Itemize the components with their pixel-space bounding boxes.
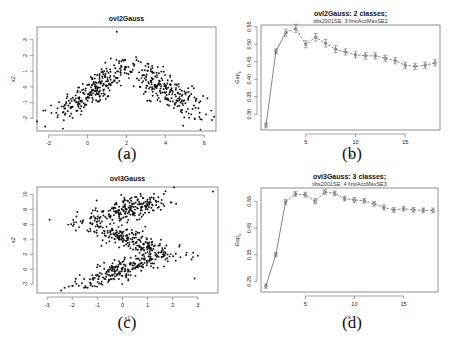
chart-title: ovl2Gauss [109,15,145,22]
x-tick-label: 1 [146,302,149,308]
y-tick-label: -1 [22,100,28,105]
y-tick-label: 0 [22,268,28,271]
y-tick-label: -2 [22,116,28,121]
y-tick-label: 1 [22,70,28,73]
panel-c-ovl3gauss-scatter: -3-2-10123-20246810x1x2ovl3Gauss [0,174,230,324]
y-axis-label: x2 [10,76,16,82]
x-tick-label: -3 [45,302,50,308]
y-tick-label: 8 [22,208,28,211]
x-tick-label: -1 [95,302,100,308]
chart-title: ovl3Gauss [110,175,146,182]
axes: 510150.250.350.450.55kGapk [234,188,438,320]
plot-frame [37,27,216,131]
plot-frame [261,188,438,292]
y-tick-label: 0.35 [246,91,252,102]
y-axis-label: Gapk [234,71,242,83]
y-tick-label: 2 [22,54,28,57]
gap-plot-d: 510150.250.350.450.55kGapkovl3Gauss: 3 c… [230,174,453,324]
x-tick-label: 0 [121,302,124,308]
scatter-points [36,31,215,131]
x-tick-label: 15 [401,301,407,307]
axes: 510150.300.350.400.450.500.55kGapk [234,21,440,158]
y-tick-label: -2 [22,282,28,287]
panel-a-ovl2gauss-scatter: -20246-2-10123x1x2ovl2Gauss [0,0,230,160]
error-bars [264,24,437,128]
y-tick-label: 4 [22,238,28,241]
y-tick-label: 0.55 [246,196,252,207]
y-tick-label: 0.45 [246,56,252,67]
panel-d-ovl3gauss-gap: 510150.250.350.450.55kGapkovl3Gauss: 3 c… [230,174,453,324]
caption-c: (c) [97,313,157,333]
x-tick-label: 3 [196,302,199,308]
x-tick-label: 2 [171,302,174,308]
y-tick-label: 2 [22,253,28,256]
gap-line-series [265,191,435,288]
x-tick-label: 5 [304,139,307,145]
x-tick-label: 0 [86,140,89,146]
y-axis-label: Gapk [234,234,242,246]
y-tick-label: 6 [22,223,28,226]
x-tick-label: 15 [402,139,408,145]
caption-b: (b) [322,144,382,164]
y-tick-label: 0.55 [246,21,252,32]
x-tick-label: -2 [70,302,75,308]
y-tick-label: 0.35 [246,249,252,260]
y-tick-label: 0.40 [246,74,252,85]
caption-d: (d) [322,313,382,333]
panel-b-ovl2gauss-gap: 510150.300.350.400.450.500.55kGapkovl2Ga… [230,0,453,160]
chart-subtitle: tibs2001SE: 4 firstAccMaxSE3 [312,181,387,187]
caption-a: (a) [97,144,157,164]
x-tick-label: 5 [304,301,307,307]
y-tick-label: 0.25 [246,276,252,287]
y-axis-label: x2 [10,237,16,243]
x-tick-label: 10 [351,301,357,307]
y-tick-label: 10 [22,191,28,197]
chart-subtitle: tibs2001SE: 3 firstAccMaxSE2 [313,18,388,24]
y-tick-label: 0.45 [246,223,252,234]
y-tick-label: 0 [22,85,28,88]
y-tick-label: 0.50 [246,39,252,50]
y-tick-label: 0.30 [246,109,252,120]
x-tick-label: 6 [203,140,206,146]
scatter-plot-c: -3-2-10123-20246810x1x2ovl3Gauss [0,174,230,324]
error-bars [264,190,435,289]
x-tick-label: -2 [46,140,51,146]
gap-plot-b: 510150.300.350.400.450.500.55kGapkovl2Ga… [230,0,453,160]
gap-line-series [265,27,437,127]
y-tick-label: 3 [22,38,28,41]
x-tick-label: 4 [164,140,167,146]
scatter-points [49,186,214,291]
plot-frame [261,25,440,130]
scatter-plot-a: -20246-2-10123x1x2ovl2Gauss [0,0,230,160]
